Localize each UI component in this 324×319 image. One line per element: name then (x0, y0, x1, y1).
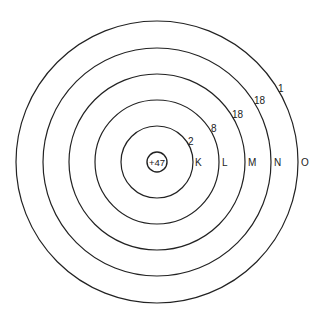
shell-m-label: M (248, 157, 256, 168)
shell-m-electrons: 18 (232, 109, 244, 120)
nucleus-charge-label: +47 (149, 157, 165, 168)
atom-diagram: +47 K L M N O 2 8 18 18 1 (0, 0, 324, 319)
shell-n-electrons: 18 (254, 95, 266, 106)
shell-k-electrons: 2 (188, 136, 194, 147)
shell-o-label: O (301, 157, 309, 168)
shell-l-label: L (222, 157, 228, 168)
shell-o-electrons: 1 (278, 83, 284, 94)
shell-k-label: K (195, 157, 202, 168)
shell-n-label: N (274, 157, 281, 168)
shell-l-electrons: 8 (211, 123, 217, 134)
